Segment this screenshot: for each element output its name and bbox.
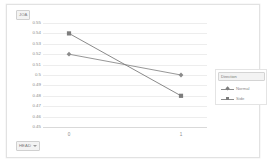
legend-marker-square-icon xyxy=(221,96,234,102)
x-axis-tick-label: 0 xyxy=(68,133,71,138)
y-axis-tick-label: 0.54 xyxy=(19,31,41,35)
y-axis-tick-label: 0.52 xyxy=(19,52,41,56)
data-point-square[interactable] xyxy=(67,31,71,35)
legend-entry[interactable]: Side xyxy=(221,96,244,102)
data-point-diamond[interactable] xyxy=(67,52,72,57)
pivot-chart-frame[interactable]: JOA 0.550.540.530.520.510.50.490.480.470… xyxy=(6,4,260,158)
legend-entry-label: Normal xyxy=(236,87,250,91)
value-field-label: JOA xyxy=(19,13,27,17)
data-point-square[interactable] xyxy=(179,94,183,98)
chevron-down-icon[interactable] xyxy=(33,145,37,147)
y-axis-tick-label: 0.45 xyxy=(19,125,41,129)
y-axis-tick-label: 0.55 xyxy=(19,21,41,25)
plot-area[interactable] xyxy=(43,23,207,127)
row-field-button[interactable]: HEAD xyxy=(16,141,40,151)
y-axis-tick-label: 0.51 xyxy=(19,62,41,66)
value-field-button[interactable]: JOA xyxy=(16,10,30,20)
legend-entry[interactable]: Normal xyxy=(221,86,250,92)
y-axis-tick-label: 0.5 xyxy=(19,73,41,77)
x-axis-tick-labels: 01 xyxy=(43,131,207,141)
legend-entry-label: Side xyxy=(236,97,244,101)
legend-field-label: Direction xyxy=(221,75,237,79)
series-layer xyxy=(43,23,207,127)
x-axis-line xyxy=(43,127,207,128)
data-point-diamond[interactable] xyxy=(179,73,184,78)
series-line xyxy=(69,33,181,95)
legend-field-button[interactable]: Direction xyxy=(218,72,265,81)
row-field-label: HEAD xyxy=(19,144,31,148)
x-axis-tick-label: 1 xyxy=(180,133,183,138)
y-axis-tick-label: 0.49 xyxy=(19,83,41,87)
y-axis-tick-labels: 0.550.540.530.520.510.50.490.480.470.460… xyxy=(17,23,41,127)
legend[interactable]: Direction Normal Side xyxy=(215,69,267,105)
y-axis-tick-label: 0.47 xyxy=(19,104,41,108)
y-axis-tick-label: 0.46 xyxy=(19,114,41,118)
y-axis-tick-label: 0.48 xyxy=(19,94,41,98)
y-axis-tick-label: 0.53 xyxy=(19,42,41,46)
legend-marker-diamond-icon xyxy=(221,86,234,92)
